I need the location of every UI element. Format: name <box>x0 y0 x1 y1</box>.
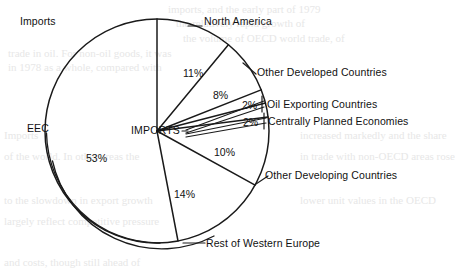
leader-other-developed <box>243 63 256 74</box>
label-other-developing: Other Developing Countries <box>265 169 397 181</box>
label-imports-corner: Imports <box>20 15 56 27</box>
label-other-developed: Other Developed Countries <box>257 66 387 78</box>
value-centrally-planned: 2% <box>243 116 258 128</box>
pie-inner-rim-arc-2 <box>47 133 161 243</box>
value-other-developed: 8% <box>213 89 228 101</box>
value-other-developing: 10% <box>214 146 235 158</box>
slice-divider-rest-western-europe-start <box>157 131 255 185</box>
label-imports-center: IMPORTS <box>131 124 180 136</box>
pie-inner-rim-arc <box>53 161 215 249</box>
slice-divider-eec-start <box>157 131 178 241</box>
label-oil-exporting: Oil Exporting Countries <box>267 98 377 110</box>
label-north-america: North America <box>204 15 272 27</box>
value-rest-western-europe: 14% <box>174 188 195 200</box>
value-eec: 53% <box>86 152 107 164</box>
value-north-america: 11% <box>183 67 203 79</box>
label-rest-western-europe: Rest of Western Europe <box>206 237 320 249</box>
label-centrally-planned: Centrally Planned Economies <box>268 115 408 127</box>
value-oil-exporting: 2% <box>242 99 257 111</box>
label-eec: EEC <box>27 122 49 134</box>
